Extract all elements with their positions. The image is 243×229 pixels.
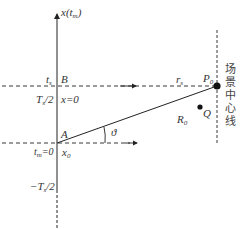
axis-label: x(tm) — [60, 6, 82, 20]
scene-center-label: 场 景 中 心 线 — [225, 62, 236, 128]
label-Ts-half: Ts/2 — [36, 93, 54, 107]
label-tm-zero: tm=0 — [34, 146, 54, 159]
geometry-diagram: x(tm) ts B Ts/2 x=0 A tm=0 x0 −Ts/2 ϑ rs… — [0, 0, 243, 229]
angle-arc — [104, 127, 105, 143]
label-r-s: rs — [176, 73, 183, 87]
svg-text:线: 线 — [225, 114, 236, 128]
svg-text:场: 场 — [225, 62, 236, 76]
label-x-zero: x=0 — [60, 93, 79, 105]
label-P0: P0 — [202, 72, 214, 86]
label-neg-Ts-half: −Ts/2 — [30, 180, 55, 194]
svg-text:景: 景 — [225, 76, 236, 89]
point-P0 — [213, 82, 220, 89]
label-t-s: ts — [46, 73, 52, 87]
label-x0: x0 — [61, 146, 71, 160]
label-R0: R0 — [176, 113, 188, 127]
svg-text:中: 中 — [225, 89, 236, 102]
label-B: B — [61, 73, 68, 85]
svg-text:心: 心 — [225, 102, 236, 115]
label-Q: Q — [203, 107, 211, 119]
point-Q — [197, 104, 202, 109]
label-theta: ϑ — [111, 126, 117, 138]
line-A-P0 — [57, 86, 217, 143]
label-A: A — [60, 128, 68, 140]
